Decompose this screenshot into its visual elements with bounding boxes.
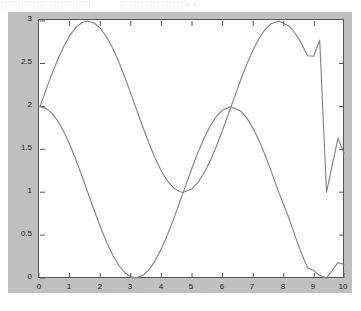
x-tick-label-5: 5 — [180, 282, 202, 291]
x-tick-label-9: 9 — [302, 282, 324, 291]
x-tick-label-6: 6 — [211, 282, 233, 291]
toolbar-group-4 — [58, 1, 74, 9]
toolbar-group-1 — [2, 1, 20, 9]
y-tick-label-2: 2 — [10, 100, 32, 109]
plot-axes — [38, 19, 344, 278]
x-tick-label-4: 4 — [150, 282, 172, 291]
toolbar-dot-2 — [193, 3, 196, 6]
toolbar-group-8 — [154, 1, 168, 9]
x-tick-label-2: 2 — [89, 282, 111, 291]
y-tick-label-1: 1 — [10, 186, 32, 195]
y-axis-ticks — [40, 21, 45, 278]
y-axis-ticks-right — [339, 64, 344, 236]
toolbar-group-6 — [120, 1, 136, 9]
x-tick-label-10: 10 — [332, 282, 354, 291]
y-tick-label-1.5: 1.5 — [10, 143, 32, 152]
x-tick-label-8: 8 — [272, 282, 294, 291]
toolbar-dot-1 — [186, 3, 189, 6]
toolbar-group-5 — [76, 1, 90, 9]
y-tick-label-2.5: 2.5 — [10, 57, 32, 66]
y-tick-label-0: 0 — [10, 272, 32, 281]
x-tick-label-3: 3 — [119, 282, 141, 291]
figure-panel: 3 2.5 2 1.5 1 0.5 0 0 1 2 3 4 5 6 7 8 9 … — [8, 12, 352, 293]
x-tick-label-1: 1 — [58, 282, 80, 291]
toolbar-group-7 — [138, 1, 152, 9]
figure-screenshot: 3 2.5 2 1.5 1 0.5 0 0 1 2 3 4 5 6 7 8 9 … — [0, 0, 361, 311]
toolbar-ghost — [0, 0, 361, 9]
plot-canvas — [39, 20, 345, 279]
x-tick-label-7: 7 — [241, 282, 263, 291]
data-line-curve-2 — [40, 107, 344, 278]
toolbar-group-2 — [22, 1, 38, 9]
x-axis-ticks — [39, 273, 344, 278]
toolbar-group-9 — [170, 1, 182, 9]
y-tick-label-0.5: 0.5 — [10, 229, 32, 238]
x-tick-label-0: 0 — [28, 282, 50, 291]
y-tick-label-3: 3 — [10, 14, 32, 23]
toolbar-group-3 — [40, 1, 56, 9]
